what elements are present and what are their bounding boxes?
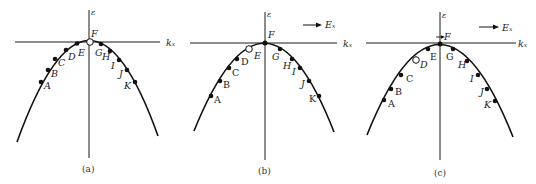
state-point-b	[46, 68, 51, 73]
label-h: H	[101, 51, 111, 62]
state-point-c	[399, 73, 404, 78]
panel-a: ε kₓ A B C D E F G H I J K (a)	[15, 8, 176, 174]
state-point-b	[389, 87, 394, 92]
kx-axis-label: kₓ	[518, 38, 528, 49]
state-point-k	[317, 94, 322, 99]
band-curve	[17, 40, 158, 142]
energy-axis-label: ε	[267, 10, 271, 19]
panel-caption: (c)	[434, 168, 446, 178]
label-f: F	[443, 31, 451, 42]
state-point-e	[75, 41, 80, 46]
label-j: J	[117, 68, 124, 79]
panel-b: ε kₓ Eₓ A B C D E F G H I J K (b)	[190, 10, 353, 176]
state-point-j	[125, 68, 130, 73]
label-f: F	[90, 28, 98, 39]
state-point-a	[209, 94, 214, 99]
empty-state-f	[87, 39, 94, 46]
label-a: A	[43, 80, 51, 91]
state-point-f	[263, 41, 268, 46]
state-point-c	[53, 57, 58, 62]
state-point-b	[218, 79, 223, 84]
field-label: Eₓ	[324, 19, 336, 30]
kx-axis-label: kₓ	[166, 37, 176, 48]
label-d: D	[241, 56, 249, 67]
label-d: D	[67, 51, 76, 62]
label-h: H	[457, 59, 467, 70]
label-k: K	[309, 93, 317, 104]
label-c: C	[232, 67, 239, 78]
state-point-c	[227, 66, 232, 71]
empty-state-d	[413, 57, 420, 64]
panel-caption: (b)	[258, 166, 271, 176]
label-e: E	[430, 51, 437, 62]
panel-caption: (a)	[82, 164, 94, 174]
state-point-i	[298, 66, 303, 71]
field-arrow: Eₓ	[479, 22, 513, 33]
band-curve	[194, 43, 334, 132]
label-b: B	[395, 86, 402, 97]
field-label: Eₓ	[501, 22, 513, 33]
field-arrow: Eₓ	[303, 19, 336, 30]
label-e: E	[253, 50, 261, 61]
label-b: B	[50, 68, 58, 79]
label-g: G	[446, 51, 454, 62]
label-i: I	[291, 66, 296, 77]
kx-axis-label: kₓ	[343, 38, 353, 49]
state-point-g	[99, 42, 104, 47]
state-point-a	[39, 80, 44, 85]
label-a: A	[213, 94, 221, 105]
state-point-j	[307, 79, 312, 84]
label-f: F	[267, 29, 275, 40]
label-c: C	[58, 57, 66, 68]
state-point-k	[133, 80, 138, 85]
label-i: I	[110, 60, 115, 71]
arrow-head-icon	[493, 25, 499, 30]
label-i: I	[469, 73, 474, 84]
state-point-f	[438, 42, 443, 47]
label-g: G	[272, 51, 280, 62]
panel-c: ε kₓ Eₓ A B C D E F G H I J K	[366, 11, 528, 178]
state-point-a	[382, 98, 387, 103]
band-diagram-figure: ε kₓ A B C D E F G H I J K (a) ε kₓ	[0, 0, 536, 184]
label-k: K	[483, 99, 492, 110]
energy-axis-label: ε	[91, 8, 95, 17]
arrow-head-icon	[316, 23, 322, 28]
label-k: K	[123, 80, 132, 91]
label-e: E	[77, 47, 85, 58]
state-point-i	[117, 58, 122, 63]
label-a: A	[387, 98, 395, 109]
label-h: H	[282, 60, 292, 71]
label-j: J	[478, 86, 485, 97]
energy-axis-label: ε	[442, 11, 446, 20]
label-c: C	[406, 73, 413, 84]
state-point-i	[476, 73, 481, 78]
state-point-j	[485, 87, 490, 92]
state-point-k	[493, 99, 498, 104]
label-d: D	[419, 59, 428, 70]
label-j: J	[299, 78, 306, 89]
empty-state-e	[246, 46, 253, 53]
label-b: B	[223, 79, 230, 90]
state-point-d	[235, 57, 240, 62]
